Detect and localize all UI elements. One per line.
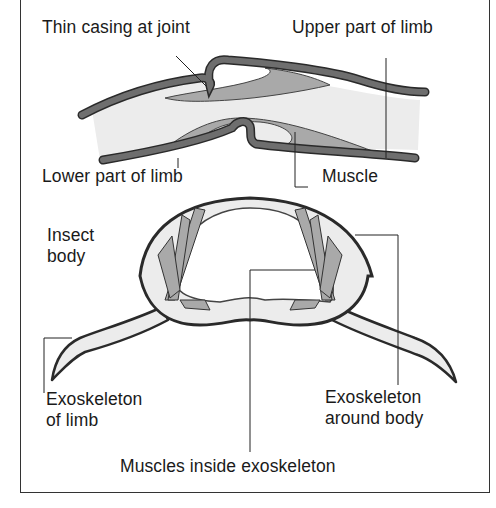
label-exo-limb-line1: Exoskeleton xyxy=(46,389,142,410)
label-exo-limb-line2: of limb xyxy=(46,410,142,431)
left-leg xyxy=(52,307,168,380)
label-muscle: Muscle xyxy=(322,166,378,187)
label-insect-body-line2: body xyxy=(47,246,94,267)
label-exo-limb: Exoskeleton of limb xyxy=(46,389,142,432)
label-insect-body-line1: Insect xyxy=(47,225,94,246)
label-lower-limb: Lower part of limb xyxy=(42,166,183,187)
right-leg xyxy=(332,307,456,382)
label-exo-body: Exoskeleton around body xyxy=(325,387,423,430)
label-exo-body-line2: around body xyxy=(325,408,423,429)
label-exo-body-line1: Exoskeleton xyxy=(325,387,423,408)
label-insect-body: Insect body xyxy=(47,225,94,268)
label-upper-limb: Upper part of limb xyxy=(292,17,433,38)
label-thin-casing: Thin casing at joint xyxy=(42,17,190,38)
label-muscles-inside: Muscles inside exoskeleton xyxy=(120,456,336,477)
